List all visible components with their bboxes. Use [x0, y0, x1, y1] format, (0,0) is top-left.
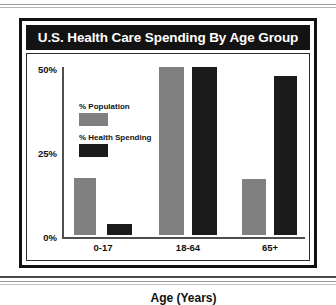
- y-axis-line: [62, 67, 64, 239]
- y-tick-label-50: 50%: [17, 64, 57, 75]
- legend-label-population: % Population: [79, 102, 151, 112]
- chart-title-bar: U.S. Health Care Spending By Age Group: [26, 25, 310, 50]
- legend-entry-spending: % Health Spending: [79, 133, 151, 157]
- plot-area: 50% 25% 0% % Population % Health Spendin…: [26, 53, 310, 261]
- y-tick-label-25: 25%: [17, 148, 57, 159]
- bar-population-18-64: [159, 67, 184, 235]
- x-axis-line: [62, 237, 305, 239]
- page-rule-bottom-2: [0, 281, 336, 282]
- legend-label-spending: % Health Spending: [79, 133, 151, 143]
- page-rule-top-2: [0, 7, 336, 8]
- legend-swatch-population: [79, 113, 108, 126]
- x-axis-title: Age (Years): [62, 291, 305, 305]
- page-rule-top-1: [0, 4, 336, 5]
- bar-spending-0-17: [107, 224, 132, 235]
- bar-population-65-plus: [242, 179, 266, 235]
- page-rule-bottom-3: [0, 284, 336, 285]
- y-tick-label-0: 0%: [17, 232, 57, 243]
- bar-spending-18-64: [192, 67, 217, 235]
- chart-title: U.S. Health Care Spending By Age Group: [38, 30, 299, 45]
- legend-swatch-spending: [79, 144, 108, 157]
- x-tick-label-65-plus: 65+: [240, 242, 300, 253]
- bar-population-0-17: [74, 178, 96, 235]
- page-rule-bottom-1: [0, 276, 336, 278]
- x-tick-label-18-64: 18-64: [158, 242, 218, 253]
- chart-legend: % Population % Health Spending: [79, 102, 151, 164]
- legend-entry-population: % Population: [79, 102, 151, 126]
- bar-spending-65-plus: [274, 76, 297, 235]
- figure-frame: U.S. Health Care Spending By Age Group 5…: [19, 18, 317, 268]
- x-tick-label-0-17: 0-17: [73, 242, 133, 253]
